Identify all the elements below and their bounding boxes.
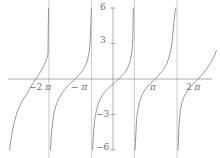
tangent-function-plot: −2 π− π π2 π 63−3−6 (0, 0, 220, 158)
x-tick-pi: π (150, 83, 156, 92)
minus-sign: − (71, 82, 79, 92)
minus-sign: − (29, 82, 37, 92)
axis-lines (8, 7, 212, 150)
plot-canvas (0, 0, 220, 158)
x-tick-2pi: 2 π (186, 83, 201, 92)
pi-symbol: π (79, 82, 88, 92)
y-tick-neg-3: −3 (96, 110, 109, 119)
y-tick-6: 6 (100, 3, 106, 12)
pi-symbol: π (192, 82, 201, 92)
pi-symbol: π (42, 82, 51, 92)
x-tick-minus-pi: − π (71, 83, 87, 92)
tangent-branch-4 (178, 51, 216, 150)
pi-symbol: π (150, 82, 156, 92)
y-tick-neg-6: −6 (96, 143, 109, 152)
y-tick-3: 3 (100, 36, 106, 45)
x-tick-minus-2pi: −2 π (29, 83, 51, 92)
